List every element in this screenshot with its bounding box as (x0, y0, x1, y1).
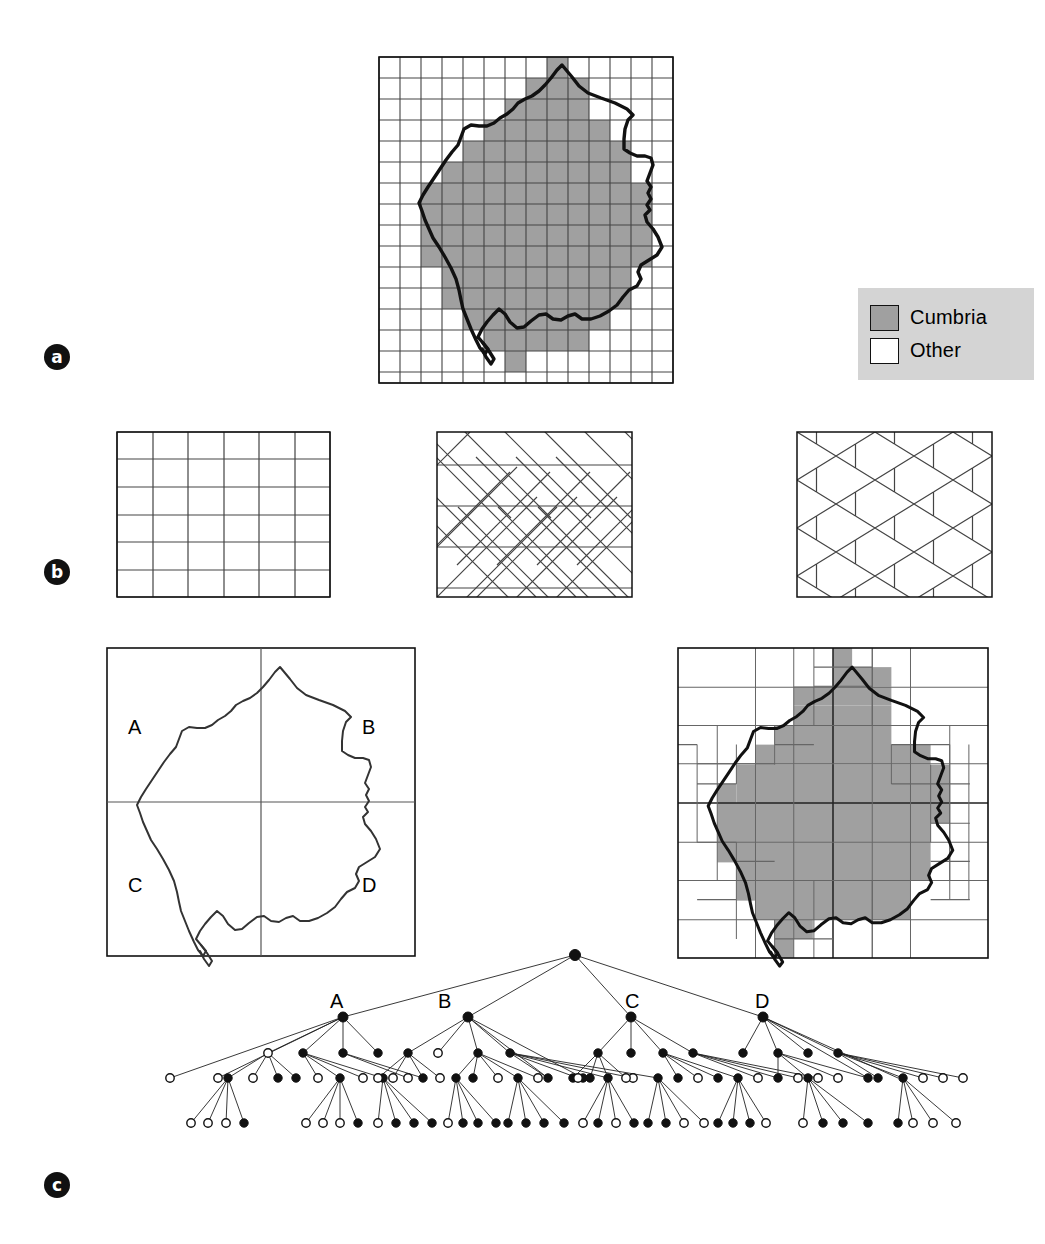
quadrant-label-b: B (362, 716, 375, 739)
panel-a-map (379, 57, 679, 387)
quadtree-tree-diagram (78, 945, 998, 1200)
cumbria-swatch-icon (870, 305, 899, 331)
tessellation-triangular (437, 432, 633, 598)
other-swatch-icon (870, 338, 899, 364)
panel-c-quadtree-map (678, 648, 988, 958)
quadrant-label-d: D (362, 874, 376, 897)
tree-nodes-hollow (166, 1049, 967, 1127)
panel-label-a: a (44, 344, 70, 370)
tree-label-d: D (755, 990, 769, 1013)
legend-label-cumbria: Cumbria (910, 306, 987, 329)
tessellation-square (117, 432, 331, 598)
panel-c-quadrant-map (107, 648, 417, 958)
tree-label-b: B (438, 990, 451, 1013)
tessellation-hexagonal (797, 432, 993, 598)
legend-item-other: Other (870, 338, 1022, 364)
tree-label-c: C (625, 990, 639, 1013)
legend-item-cumbria: Cumbria (870, 305, 1022, 331)
quadrant-label-a: A (128, 716, 141, 739)
tree-label-a: A (330, 990, 343, 1013)
tree-edges (170, 955, 963, 1123)
legend-label-other: Other (910, 339, 961, 362)
quadrant-label-c: C (128, 874, 142, 897)
legend: Cumbria Other (858, 288, 1034, 380)
tree-nodes-filled (224, 950, 907, 1128)
figure-root: a (0, 0, 1045, 1244)
panel-label-b: b (44, 559, 70, 585)
panel-label-c: c (44, 1172, 70, 1198)
